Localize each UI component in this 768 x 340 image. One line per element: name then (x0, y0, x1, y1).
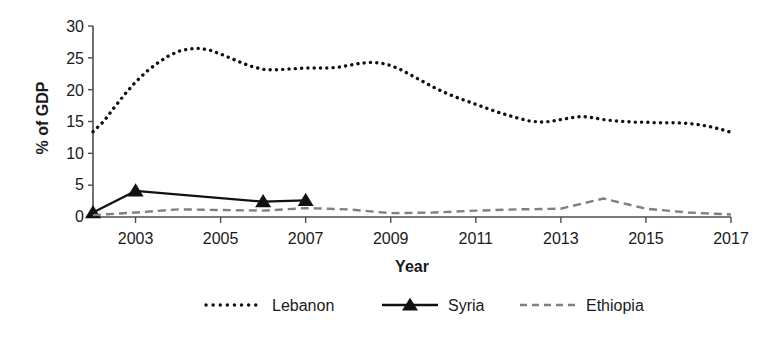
x-tick-label: 2017 (713, 230, 749, 247)
solid-triangle-line-swatch (382, 298, 438, 311)
legend-label: Lebanon (272, 297, 334, 314)
x-tick-labels: 20032005200720092011201320152017 (118, 230, 749, 247)
y-tick-label: 30 (66, 18, 84, 35)
legend-label: Ethiopia (586, 297, 644, 314)
y-tick-label: 0 (75, 208, 84, 225)
y-tick-label: 20 (66, 82, 84, 99)
legend-item-ethiopia: Ethiopia (520, 297, 644, 314)
y-tick-label: 10 (66, 145, 84, 162)
x-tick-label: 2013 (543, 230, 579, 247)
legend-item-syria: Syria (382, 297, 485, 314)
x-tick-label: 2003 (118, 230, 154, 247)
x-tick-label: 2015 (628, 230, 664, 247)
series-ethiopia (93, 199, 731, 216)
x-axis-title: Year (395, 258, 429, 275)
series-lebanon (93, 48, 731, 132)
y-axis-title: % of GDP (34, 81, 51, 154)
chart-axes (88, 26, 731, 223)
legend-label: Syria (448, 297, 485, 314)
y-tick-label: 25 (66, 50, 84, 67)
x-tick-label: 2005 (203, 230, 239, 247)
x-tick-label: 2009 (373, 230, 409, 247)
legend-item-lebanon: Lebanon (206, 297, 334, 314)
y-tick-labels: 30 25 20 15 10 5 0 (66, 18, 84, 225)
y-tick-label: 15 (66, 113, 84, 130)
data-point-marker (298, 193, 314, 206)
x-tick-label: 2011 (459, 230, 494, 247)
x-tick-label: 2007 (288, 230, 324, 247)
data-point-marker (85, 205, 101, 218)
data-point-marker (128, 183, 144, 196)
chart-legend: LebanonSyriaEthiopia (206, 297, 644, 314)
gdp-line-chart: % of GDP 30 25 20 15 10 5 0 200320052007… (0, 0, 768, 340)
chart-series (85, 48, 731, 218)
y-tick-label: 5 (75, 176, 84, 193)
